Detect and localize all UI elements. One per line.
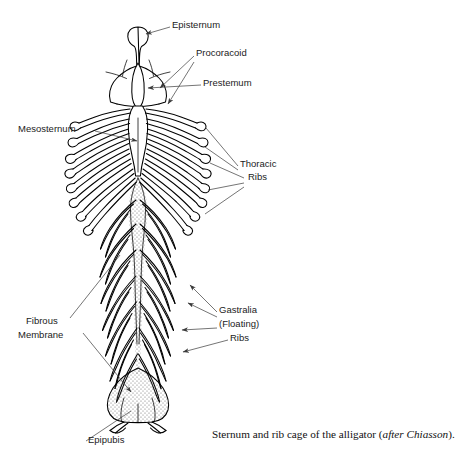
alligator-sternum-figure: Episternum Procoracoid Prestemum Mesoste…	[0, 0, 458, 467]
label-episternum: Episternum	[172, 19, 220, 30]
caption-text-before: Sternum and rib cage of the alligator (	[212, 428, 383, 440]
caption-text-after: ).	[448, 428, 455, 440]
leader-lines	[70, 27, 244, 441]
label-procoracoid: Procoracoid	[196, 47, 247, 58]
episternum-bone	[128, 27, 148, 67]
label-mesosternum: Mesosternum	[18, 123, 76, 134]
label-gastralia-line3: Ribs	[230, 332, 249, 343]
mesosternum-bone	[128, 106, 147, 176]
label-fibrous-membrane-line1: Fibrous	[26, 315, 58, 326]
label-gastralia-line1: Gastralia	[219, 304, 258, 315]
label-prestemum: Prestemum	[203, 77, 252, 88]
figure-caption: Sternum and rib cage of the alligator (a…	[212, 428, 458, 442]
label-gastralia-line2: (Floating)	[219, 318, 259, 329]
label-epipubis: Epipubis	[88, 434, 125, 445]
label-fibrous-membrane-line2: Membrane	[18, 329, 63, 340]
label-thoracic-ribs-line1: Thoracic	[240, 158, 277, 169]
label-thoracic-ribs-line2: Ribs	[248, 171, 267, 182]
caption-attribution: after Chiasson	[383, 428, 449, 440]
epipubis-bone	[107, 368, 168, 433]
prestemum-bone	[132, 63, 144, 109]
